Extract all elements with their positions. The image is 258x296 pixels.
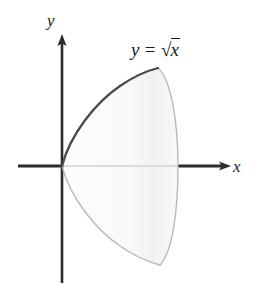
function-equals: = bbox=[145, 39, 156, 60]
figure-container: y = √x x y bbox=[0, 0, 258, 296]
y-axis-label: y bbox=[47, 11, 55, 31]
function-lhs: y bbox=[131, 39, 140, 60]
square-root-expression: √x bbox=[161, 38, 180, 61]
diagram-canvas bbox=[0, 0, 258, 296]
radicand: x bbox=[171, 38, 181, 61]
x-axis-label: x bbox=[233, 157, 241, 177]
function-label: y = √x bbox=[131, 38, 180, 61]
